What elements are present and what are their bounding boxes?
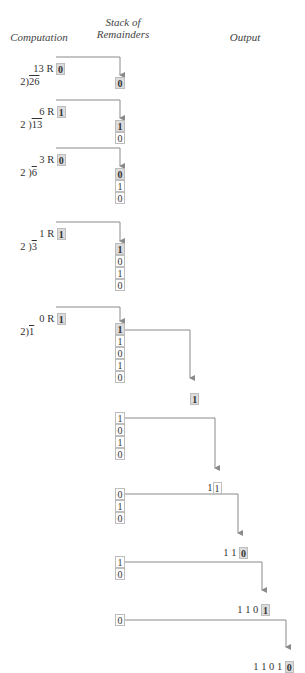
dividend: 3 <box>32 241 37 252</box>
stack-cell: 1 <box>115 500 125 512</box>
stack-cell: 0 <box>115 347 125 359</box>
remainder-box: 0 <box>57 154 66 166</box>
stack-cell: 1 <box>115 556 125 568</box>
divisor: 2 <box>20 241 25 252</box>
stack-cell: 1 <box>115 120 125 132</box>
output-line: 1 1 0 <box>218 535 248 559</box>
r-label: R <box>47 154 54 165</box>
output-prefix: 1 1 <box>223 547 236 558</box>
stack-cell: 0 <box>115 568 125 580</box>
output-last-digit: 0 <box>285 661 294 673</box>
stack-cell: 1 <box>115 243 125 255</box>
stack-cell: 1 <box>115 180 125 192</box>
remainder-box: 0 <box>56 63 65 75</box>
output-prefix: 1 1 0 1 <box>253 661 282 672</box>
output-last-digit: 1 <box>261 604 270 616</box>
stack-cell: 0 <box>115 168 125 180</box>
quotient: 3 <box>39 154 44 165</box>
output-header: Output <box>215 31 275 43</box>
remainder-box: 1 <box>57 228 66 240</box>
quotient-line: 0 R 1 <box>34 301 66 325</box>
remainder-box: 1 <box>57 313 66 325</box>
stack-cell: 0 <box>115 614 125 626</box>
stack-cell: 0 <box>115 77 125 89</box>
stack-cell: 0 <box>115 512 125 524</box>
output-last-digit: 1 <box>190 393 199 405</box>
divisor: 2 <box>20 119 25 130</box>
division-line: 2)26 <box>15 64 40 88</box>
stack-cell: 0 <box>115 448 125 460</box>
division-line: 2 )13 <box>15 107 42 131</box>
stack-cell: 0 <box>115 488 125 500</box>
division-line: 2 )3 <box>15 229 37 253</box>
dividend: 1 <box>29 326 34 337</box>
output-last-digit: 0 <box>239 547 248 559</box>
r-label: R <box>47 106 54 117</box>
stack-cell: 0 <box>115 255 125 267</box>
stack-cell: 1 <box>115 436 125 448</box>
computation-header: Computation <box>4 31 74 43</box>
divisor: 2 <box>20 326 25 337</box>
remainder-box: 1 <box>57 106 66 118</box>
dividend: 13 <box>32 119 43 130</box>
divisor: 2 <box>20 167 25 178</box>
divisor: 2 <box>20 76 25 87</box>
division-line: 2)1 <box>15 314 34 338</box>
division-line: 2 )6 <box>15 155 37 179</box>
stack-cell: 1 <box>115 335 125 347</box>
stack-cell: 0 <box>115 279 125 291</box>
output-line: 1 1 0 1 0 <box>248 649 294 673</box>
quotient-line: 3 R 0 <box>34 142 66 166</box>
output-last-digit: 1 <box>213 482 222 494</box>
stack-cell: 1 <box>115 412 125 424</box>
dividend: 6 <box>32 167 37 178</box>
stack-cell: 1 <box>115 359 125 371</box>
quotient: 0 <box>39 313 44 324</box>
quotient: 1 <box>39 228 44 239</box>
stack-cell: 1 <box>115 267 125 279</box>
stack-header-line1: Stack of <box>88 16 158 28</box>
output-prefix: 1 1 0 <box>237 604 258 615</box>
stack-cell: 0 <box>115 371 125 383</box>
stack-cell: 0 <box>115 132 125 144</box>
stack-cell: 0 <box>115 192 125 204</box>
r-label: R <box>46 63 53 74</box>
stack-cell: 0 <box>115 424 125 436</box>
stack-header-line2: Remainders <box>88 28 158 40</box>
r-label: R <box>47 228 54 239</box>
output-line: 11 <box>202 470 222 494</box>
dividend: 26 <box>29 76 40 87</box>
stack-cell: 1 <box>115 323 125 335</box>
quotient-line: 1 R 1 <box>34 216 66 240</box>
r-label: R <box>47 313 54 324</box>
output-line: 1 1 0 1 <box>232 592 270 616</box>
output-line: 1 <box>185 381 199 405</box>
